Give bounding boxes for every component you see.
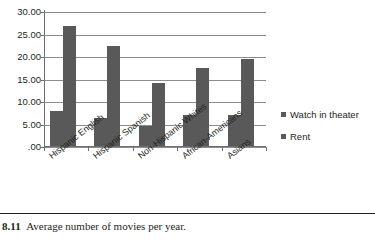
- x-tick-mark: [88, 147, 89, 151]
- gridline: [44, 57, 266, 58]
- x-tick-mark: [133, 147, 134, 151]
- figure-caption: 8.11 Average number of movies per year.: [2, 220, 186, 233]
- legend-item: Watch in theater: [281, 109, 359, 120]
- chart-legend: Watch in theaterRent: [281, 109, 359, 153]
- y-tick-label: 20.00: [0, 52, 41, 62]
- x-tick-mark: [44, 147, 45, 151]
- legend-swatch-icon: [281, 134, 286, 139]
- y-tick-label: 25.00: [0, 30, 41, 40]
- bar: [63, 26, 76, 147]
- caption-divider: [0, 213, 375, 214]
- y-tick-label: .00: [0, 142, 41, 152]
- legend-swatch-icon: [281, 112, 286, 117]
- x-tick-mark: [177, 147, 178, 151]
- y-tick-label: 5.00: [0, 120, 41, 130]
- y-tick-label: 10.00: [0, 97, 41, 107]
- gridline: [44, 35, 266, 36]
- legend-item: Rent: [281, 131, 359, 142]
- caption-number: 8.11: [2, 220, 21, 232]
- y-tick-label: 15.00: [0, 75, 41, 85]
- y-tick-label: 30.00: [0, 7, 41, 17]
- figure-movies-per-year: .005.0010.0015.0020.0025.0030.00 Hispani…: [0, 0, 375, 240]
- gridline: [44, 12, 266, 13]
- x-tick-mark: [266, 147, 267, 151]
- gridline: [44, 80, 266, 81]
- caption-text: Average number of movies per year.: [26, 220, 186, 232]
- legend-label: Watch in theater: [290, 110, 359, 120]
- legend-label: Rent: [290, 132, 310, 142]
- plot-area: [44, 12, 266, 147]
- bar: [241, 59, 254, 147]
- x-tick-mark: [222, 147, 223, 151]
